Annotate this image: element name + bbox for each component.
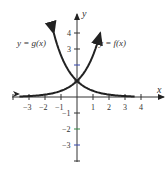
svg-text:−3: −3: [23, 103, 32, 112]
svg-text:2: 2: [107, 103, 111, 112]
svg-text:3: 3: [67, 45, 71, 54]
svg-text:1: 1: [91, 103, 95, 112]
svg-text:−1: −1: [62, 109, 71, 118]
svg-text:4: 4: [67, 29, 71, 38]
graph: −3−2−11234 −3−2−134 x y y = g(x) y = f(x…: [0, 0, 168, 171]
svg-text:−2: −2: [39, 103, 48, 112]
svg-text:−3: −3: [62, 141, 71, 150]
g-label: y = g(x): [16, 38, 46, 48]
y-axis-label: y: [81, 8, 87, 19]
svg-text:3: 3: [123, 103, 127, 112]
x-axis-label: x: [156, 84, 162, 95]
svg-text:4: 4: [139, 103, 143, 112]
svg-text:−2: −2: [62, 125, 71, 134]
f-label: y = f(x): [98, 38, 126, 48]
asymptote-left-arrow: [13, 91, 20, 97]
